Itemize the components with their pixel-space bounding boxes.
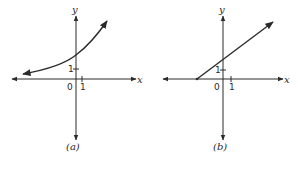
x-tick-label: 1 <box>229 82 235 92</box>
panel-b: y x 0 1 1 (b) <box>163 4 290 152</box>
y-axis-label: y <box>71 4 78 15</box>
exponential-curve <box>23 21 107 74</box>
origin-label: 0 <box>67 82 73 92</box>
caption-a: (a) <box>66 141 80 152</box>
caption-b: (b) <box>213 141 227 152</box>
panel-a: y x 0 1 1 (a) <box>12 4 143 152</box>
figure: y x 0 1 1 (a) y x 0 1 1 (b) <box>0 0 298 169</box>
y-tick-label: 1 <box>215 65 221 75</box>
x-axis-label: x <box>137 74 143 85</box>
y-axis-label: y <box>218 4 225 15</box>
y-tick-label: 1 <box>68 64 74 74</box>
line-ray <box>197 22 273 79</box>
x-tick-label: 1 <box>80 82 86 92</box>
origin-label: 0 <box>214 82 220 92</box>
ray-start-point <box>196 78 199 81</box>
x-axis-label: x <box>284 74 290 85</box>
